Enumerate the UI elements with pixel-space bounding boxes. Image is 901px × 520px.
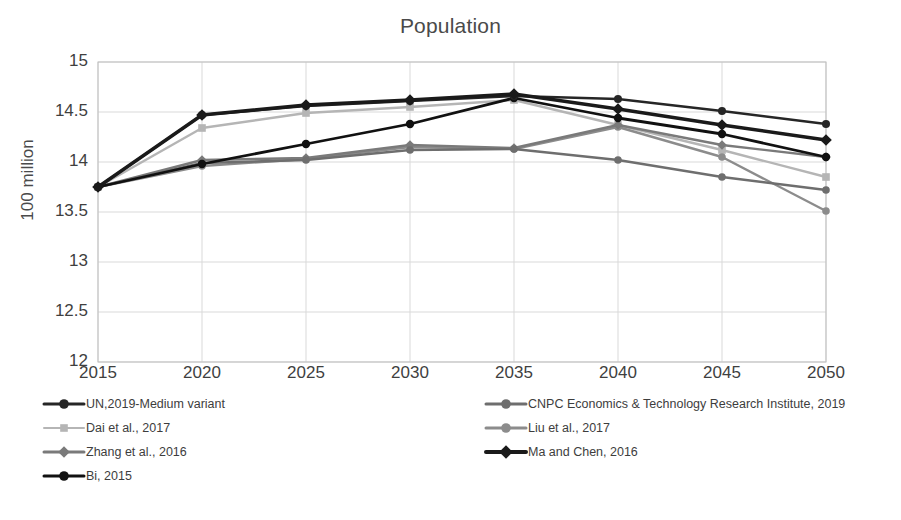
legend-key-icon [484, 394, 528, 414]
legend-key-icon [42, 466, 86, 486]
legend-item-label: Ma and Chen, 2016 [528, 446, 638, 459]
data-point-marker [822, 173, 830, 181]
data-point-marker [822, 186, 830, 194]
data-point-marker [300, 99, 312, 111]
data-point-marker [614, 95, 622, 103]
data-point-marker [718, 107, 726, 115]
legend-item-label: Dai et al., 2017 [86, 422, 170, 435]
series-line [98, 127, 826, 211]
data-point-marker [501, 399, 511, 409]
legend-item[interactable]: UN,2019-Medium variant [42, 392, 442, 416]
data-point-marker [499, 445, 513, 459]
gridlines [98, 62, 826, 362]
data-point-marker [822, 207, 830, 215]
legend-column-left: UN,2019-Medium variantDai et al., 2017Zh… [42, 392, 442, 488]
legend-key-icon [42, 442, 86, 462]
data-point-marker [404, 94, 416, 106]
legend-item[interactable]: Liu et al., 2017 [484, 416, 901, 440]
population-line-chart: Population 100 million 1514.51413.51312.… [0, 0, 901, 520]
data-point-marker [406, 120, 414, 128]
legend-key-icon [484, 418, 528, 438]
data-point-marker [302, 140, 310, 148]
legend-item-label: Bi, 2015 [86, 470, 132, 483]
data-point-marker [58, 446, 70, 458]
data-point-marker [501, 423, 511, 433]
legend-marker [484, 394, 528, 414]
series-line [98, 94, 826, 187]
legend-item-label: UN,2019-Medium variant [86, 398, 225, 411]
data-point-marker [822, 120, 830, 128]
data-point-marker [198, 160, 206, 168]
data-point-marker [718, 173, 726, 181]
legend-marker [42, 442, 86, 462]
chart-legend: UN,2019-Medium variantDai et al., 2017Zh… [42, 392, 901, 502]
legend-marker [42, 394, 86, 414]
data-point-marker [406, 146, 414, 154]
data-point-marker [302, 156, 310, 164]
legend-key-icon [42, 418, 86, 438]
legend-item[interactable]: Dai et al., 2017 [42, 416, 442, 440]
legend-item[interactable]: Bi, 2015 [42, 464, 442, 488]
data-point-marker [612, 103, 624, 115]
legend-item-label: CNPC Economics & Technology Research Ins… [528, 398, 845, 411]
legend-marker [42, 466, 86, 486]
data-point-marker [614, 156, 622, 164]
legend-item[interactable]: Ma and Chen, 2016 [484, 440, 901, 464]
data-point-marker [510, 145, 518, 153]
data-point-marker [59, 471, 69, 481]
legend-marker [484, 418, 528, 438]
legend-item[interactable]: CNPC Economics & Technology Research Ins… [484, 392, 901, 416]
legend-key-icon [42, 394, 86, 414]
data-point-marker [60, 424, 68, 432]
data-point-marker [198, 124, 206, 132]
legend-item[interactable]: Zhang et al., 2016 [42, 440, 442, 464]
data-point-marker [718, 130, 726, 138]
legend-item-label: Zhang et al., 2016 [86, 446, 187, 459]
data-point-marker [718, 153, 726, 161]
data-point-marker [59, 399, 69, 409]
legend-column-right: CNPC Economics & Technology Research Ins… [484, 392, 901, 464]
data-point-marker [614, 114, 622, 122]
legend-key-icon [484, 442, 528, 462]
legend-item-label: Liu et al., 2017 [528, 422, 610, 435]
legend-marker [42, 418, 86, 438]
legend-marker [484, 442, 528, 462]
data-point-marker [820, 134, 832, 146]
data-point-marker [716, 119, 728, 131]
data-point-marker [822, 153, 830, 161]
